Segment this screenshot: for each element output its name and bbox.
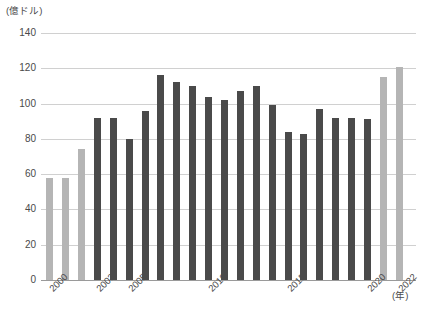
bar-2022 [396, 67, 403, 280]
y-axis-tick-labels: 020406080100120140 [0, 33, 36, 280]
bar-2012 [237, 91, 244, 280]
bar-2016 [300, 134, 307, 280]
bar-2001 [62, 178, 69, 280]
bar-2018 [332, 118, 339, 280]
bar-2006 [142, 111, 149, 280]
x-axis-tick-labels: 2000200320052010201520202022 [41, 280, 416, 323]
bar-2000 [46, 178, 53, 280]
bar-2008 [173, 82, 180, 280]
bar-2021 [380, 77, 387, 280]
bar-2015 [285, 132, 292, 280]
bar-2004 [110, 118, 117, 280]
y-axis-unit-label: (億ドル) [6, 3, 42, 17]
bar-2007 [157, 75, 164, 280]
bar-2002 [78, 149, 85, 280]
y-tick-80: 80 [2, 134, 36, 144]
y-tick-0: 0 [2, 275, 36, 285]
x-axis-unit-label: (年) [392, 288, 408, 302]
bar-2013 [253, 86, 260, 280]
bar-2011 [221, 100, 228, 280]
bar-2010 [205, 97, 212, 280]
y-tick-100: 100 [2, 99, 36, 109]
bar-series [41, 33, 416, 280]
bar-2003 [94, 118, 101, 280]
plot-area [41, 33, 416, 280]
y-tick-60: 60 [2, 169, 36, 179]
bar-2017 [316, 109, 323, 280]
bar-2014 [269, 105, 276, 280]
y-tick-40: 40 [2, 204, 36, 214]
bar-2019 [348, 118, 355, 280]
bar-chart: (億ドル) 020406080100120140 200020032005201… [0, 0, 431, 323]
bar-2005 [126, 139, 133, 280]
y-tick-140: 140 [2, 28, 36, 38]
y-tick-120: 120 [2, 63, 36, 73]
bar-2020 [364, 119, 371, 280]
y-tick-20: 20 [2, 240, 36, 250]
bar-2009 [189, 86, 196, 280]
